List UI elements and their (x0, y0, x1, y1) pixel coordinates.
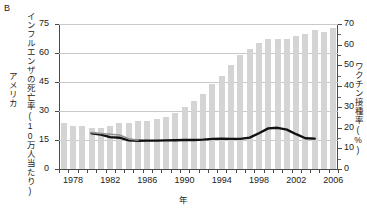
right-tick (338, 65, 342, 66)
x-tick-label: 1994 (205, 175, 239, 185)
x-tick-label: 1978 (56, 175, 90, 185)
x-tick (78, 169, 79, 173)
right-tick-label: 0 (344, 163, 367, 173)
right-minor-tick (338, 55, 341, 56)
x-tick (96, 169, 97, 173)
right-minor-tick (338, 138, 341, 139)
x-tick (301, 169, 302, 173)
x-axis-title: 年 (0, 193, 367, 205)
x-tick (319, 169, 320, 173)
right-tick-label: 40 (344, 80, 367, 90)
x-tick (133, 169, 134, 173)
left-tick (55, 111, 59, 112)
right-tick-label: 70 (344, 18, 367, 28)
x-tick (273, 169, 274, 173)
x-tick (115, 169, 116, 173)
x-tick (292, 169, 293, 173)
x-tick (264, 169, 265, 173)
x-tick-label: 1998 (242, 175, 276, 185)
right-tick (338, 86, 342, 87)
left-tick-label: 60 (23, 47, 49, 57)
right-minor-tick (338, 34, 341, 35)
right-tick (338, 24, 342, 25)
left-tick-label: 15 (23, 134, 49, 144)
x-tick (208, 169, 209, 173)
left-tick-label: 30 (23, 105, 49, 115)
left-tick (55, 140, 59, 141)
x-tick (236, 169, 237, 173)
x-tick (143, 169, 144, 173)
right-tick (338, 128, 342, 129)
region-label: アメリカ (3, 72, 17, 108)
x-tick (171, 169, 172, 173)
x-tick (87, 169, 88, 173)
right-tick-label: 10 (344, 142, 367, 152)
x-tick (199, 169, 200, 173)
right-tick (338, 45, 342, 46)
x-tick (217, 169, 218, 173)
left-tick-label: 75 (23, 18, 49, 28)
right-tick-label: 30 (344, 101, 367, 111)
x-tick (226, 169, 227, 173)
x-tick (329, 169, 330, 173)
left-tick (55, 82, 59, 83)
x-tick (310, 169, 311, 173)
x-tick (189, 169, 190, 173)
right-tick-label: 60 (344, 39, 367, 49)
x-tick (282, 169, 283, 173)
right-tick (338, 148, 342, 149)
x-tick (59, 169, 60, 173)
right-tick-label: 20 (344, 122, 367, 132)
right-tick-label: 50 (344, 59, 367, 69)
left-tick-label: 0 (23, 163, 49, 173)
x-tick-label: 2006 (316, 175, 350, 185)
right-minor-tick (338, 97, 341, 98)
panel-label: B (4, 3, 10, 13)
left-tick-label: 45 (23, 76, 49, 86)
line-series (59, 20, 338, 169)
left-tick (55, 24, 59, 25)
x-tick (152, 169, 153, 173)
x-tick (124, 169, 125, 173)
chart-figure: B アメリカ インフルエンザの死亡率(10万人当たり) ワクチン接種率(%) 年… (0, 0, 367, 211)
right-tick (338, 107, 342, 108)
x-tick (161, 169, 162, 173)
plot-area: 01530456075 010203040506070 197819821986… (59, 20, 338, 169)
mortality-line (92, 128, 315, 141)
right-minor-tick (338, 76, 341, 77)
x-tick (180, 169, 181, 173)
x-tick (68, 169, 69, 173)
x-tick (106, 169, 107, 173)
x-tick-label: 2002 (279, 175, 313, 185)
right-minor-tick (338, 159, 341, 160)
x-tick (338, 169, 339, 173)
x-tick-label: 1986 (130, 175, 164, 185)
left-tick (55, 53, 59, 54)
x-tick-label: 1982 (93, 175, 127, 185)
x-tick (254, 169, 255, 173)
x-tick (245, 169, 246, 173)
x-tick-label: 1990 (168, 175, 202, 185)
right-minor-tick (338, 117, 341, 118)
